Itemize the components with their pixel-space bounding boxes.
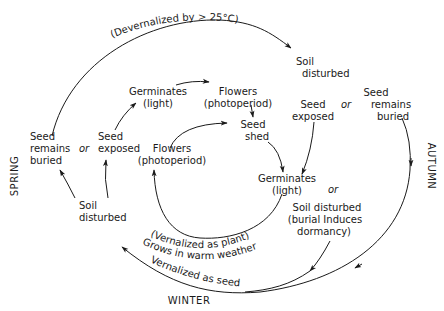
svg-text:Seed: Seed [98,131,123,142]
arrow-seed-exposed-right-to-germinates [302,122,314,174]
node-seed-exposed-right: Seed exposed [292,99,334,122]
arrow-soil-to-buried-left [60,170,75,198]
connector-or-right: or [341,99,352,110]
svg-text:Flowers: Flowers [153,143,191,154]
svg-text:Seed: Seed [364,87,389,98]
svg-text:exposed: exposed [292,111,334,122]
svg-text:shed: shed [245,131,269,142]
svg-text:Seed: Seed [241,119,266,130]
svg-text:(light): (light) [143,98,173,109]
svg-text:Soil: Soil [79,200,97,211]
svg-text:(burial Induces: (burial Induces [288,214,362,225]
season-label-winter: WINTER [168,295,211,306]
arrow-exposed-to-germinates [115,103,136,130]
svg-text:(photoperiod): (photoperiod) [204,98,273,109]
svg-text:remains: remains [30,143,70,154]
arrow-soil-to-exposed-left [105,160,108,198]
svg-text:Seed: Seed [30,131,55,142]
arrow-seed-shed-to-germinates [268,142,283,172]
svg-text:remains: remains [371,99,411,110]
node-seed-exposed-left: Seed exposed [98,131,140,154]
svg-text:Germinates: Germinates [129,86,187,97]
node-seed-shed: Seed shed [241,119,270,142]
node-seed-remains-buried-left: Seed remains buried [30,131,70,166]
seed-life-cycle-diagram: SPRING AUTUMN WINTER (Devernalized by > … [0,0,444,311]
svg-text:(light): (light) [272,185,302,196]
connector-or-left: or [79,143,90,154]
svg-text:disturbed: disturbed [79,212,127,223]
connector-or-lower: or [328,184,339,195]
svg-text:buried: buried [30,155,62,166]
svg-text:dormancy): dormancy) [297,226,351,237]
season-label-spring: SPRING [9,156,20,197]
node-germinates-lower: Germinates (light) [258,173,316,196]
node-seed-remains-buried-right: Seed remains buried [364,87,412,122]
node-soil-disturbed-left: Soil disturbed [79,200,127,223]
svg-text:(photoperiod): (photoperiod) [138,155,207,166]
svg-text:Soil: Soil [296,56,314,67]
arrow-germinates-to-flowers-upper [176,81,209,85]
node-soil-disturbed-burial: Soil disturbed (burial Induces dormancy) [288,202,362,237]
svg-text:Flowers: Flowers [219,86,257,97]
node-soil-disturbed-top: Soil disturbed [296,56,350,79]
arrow-autumn-midhead [355,264,362,268]
svg-text:Seed: Seed [301,99,326,110]
svg-text:Germinates: Germinates [258,173,316,184]
label-devernalized: (Devernalized by > 25°C) [109,11,240,40]
season-label-autumn: AUTUMN [426,143,437,190]
node-germinates-upper: Germinates (light) [129,86,187,109]
svg-text:buried: buried [377,111,409,122]
node-flowers-lower: Flowers (photoperiod) [138,143,207,166]
svg-text:exposed: exposed [98,143,140,154]
svg-text:Soil disturbed: Soil disturbed [293,202,362,213]
svg-text:disturbed: disturbed [302,68,350,79]
node-flowers-upper: Flowers (photoperiod) [204,86,273,109]
arrow-burial-to-winter [310,241,330,271]
